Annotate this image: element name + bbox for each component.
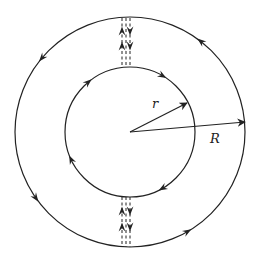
arrowhead-icon <box>127 207 134 216</box>
arrowhead-icon <box>119 42 126 51</box>
top-cut <box>119 18 134 67</box>
arrowhead-icon <box>127 223 134 232</box>
contour-diagram: r R <box>0 0 256 264</box>
arrowhead-icon <box>157 71 166 78</box>
arrowhead-icon <box>127 27 134 36</box>
inner-radius-label: r <box>152 96 159 111</box>
arrowhead-icon <box>159 183 168 190</box>
outer-radius-label: R <box>209 131 220 146</box>
arrowhead-icon <box>30 192 38 201</box>
arrowhead-icon <box>119 27 126 36</box>
arrowhead-icon <box>182 229 191 236</box>
bottom-cut <box>119 197 134 247</box>
